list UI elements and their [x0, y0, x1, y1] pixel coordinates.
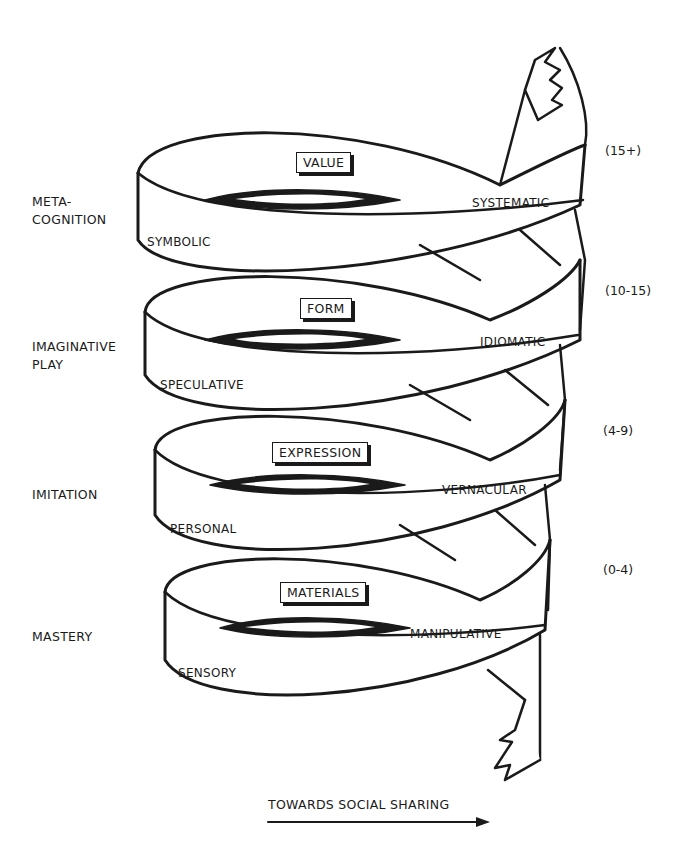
band-label-systematic: SYSTEMATIC [472, 196, 549, 210]
mode-box-value: VALUE [296, 152, 351, 173]
axis-label-social-sharing: TOWARDS SOCIAL SHARING [268, 796, 450, 814]
stage-line1: IMITATION [32, 486, 98, 504]
stage-line1: META- [32, 193, 107, 211]
band-label-symbolic: SYMBOLIC [147, 235, 211, 249]
band-label-idiomatic: IDIOMATIC [480, 335, 545, 349]
stage-label-imitation: IMITATION [32, 486, 98, 504]
stage-line1: MASTERY [32, 628, 92, 646]
spiral-diagram: META- COGNITION IMAGINATIVE PLAY IMITATI… [0, 0, 699, 864]
stage-label-mastery: MASTERY [32, 628, 92, 646]
stage-line2: PLAY [32, 356, 116, 374]
band-label-sensory: SENSORY [178, 666, 236, 680]
age-range-15plus: (15+) [605, 143, 641, 158]
band-label-manipulative: MANIPULATIVE [410, 627, 502, 641]
band-label-speculative: SPECULATIVE [160, 378, 244, 392]
mode-box-form: FORM [300, 298, 352, 319]
stage-label-imaginative-play: IMAGINATIVE PLAY [32, 338, 116, 374]
band-label-vernacular: VERNACULAR [442, 483, 527, 497]
age-range-10-15: (10-15) [605, 283, 651, 298]
mode-box-materials: MATERIALS [280, 582, 366, 603]
arrow-head-icon [476, 817, 490, 827]
stage-label-metacognition: META- COGNITION [32, 193, 107, 229]
age-range-0-4: (0-4) [603, 562, 633, 577]
spiral-graphic [0, 0, 699, 864]
stage-line2: COGNITION [32, 211, 107, 229]
mode-box-expression: EXPRESSION [272, 442, 368, 463]
stage-line1: IMAGINATIVE [32, 338, 116, 356]
age-range-4-9: (4-9) [603, 423, 633, 438]
band-label-personal: PERSONAL [170, 522, 237, 536]
